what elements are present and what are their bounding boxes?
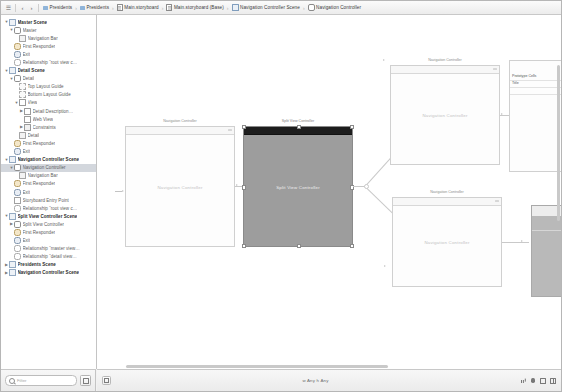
outline-row[interactable]: ▶Split View Controller bbox=[1, 220, 96, 228]
outline-row[interactable]: Exit bbox=[1, 50, 96, 58]
outline-row[interactable]: Web View bbox=[1, 115, 96, 123]
scene-frame[interactable]: Prototype Cells Title bbox=[509, 60, 561, 172]
grid-view-button[interactable]: ☰ bbox=[4, 3, 13, 12]
scene-navigation-controller-top-right[interactable]: Navigation Controller Navigation Control… bbox=[390, 65, 500, 165]
outline-row[interactable]: ▼View bbox=[1, 99, 96, 107]
filter-input[interactable]: Filter bbox=[5, 375, 77, 386]
scene-split-view-controller[interactable]: Split View Controller Split View Control… bbox=[243, 126, 353, 247]
exit-icon bbox=[14, 51, 21, 58]
align-icon[interactable] bbox=[520, 378, 526, 384]
breadcrumb-item-storyboard-base[interactable]: Main.storyboard (Base) bbox=[164, 2, 225, 14]
toggle-outline-button[interactable] bbox=[80, 375, 91, 386]
resolve-issues-icon[interactable] bbox=[540, 378, 546, 384]
view-icon bbox=[19, 99, 26, 106]
outline-row[interactable]: ▼Navigation Controller Scene bbox=[1, 156, 96, 164]
outline-row[interactable]: Storyboard Entry Point bbox=[1, 196, 96, 204]
breadcrumb-label: Main.storyboard bbox=[124, 5, 158, 10]
size-class-control[interactable]: w Any h Any bbox=[111, 378, 520, 383]
scene-frame[interactable]: Navigation Controller bbox=[390, 65, 500, 165]
breadcrumb-item-project[interactable]: Presidents bbox=[41, 2, 74, 14]
outline-row[interactable]: Navigation Bar bbox=[1, 34, 96, 42]
document-outline-panel[interactable]: ▼Master Scene▼MasterNavigation BarFirst … bbox=[1, 15, 97, 369]
pin-icon[interactable] bbox=[530, 378, 536, 384]
outline-row[interactable]: ▼Detail bbox=[1, 75, 96, 83]
view-controller-icon bbox=[14, 27, 21, 34]
resize-handle[interactable] bbox=[242, 185, 246, 189]
pin-glyph bbox=[531, 378, 534, 383]
scene-icon bbox=[9, 261, 16, 268]
storyboard-file-icon bbox=[117, 4, 123, 11]
outline-row[interactable]: Exit bbox=[1, 148, 96, 156]
resolve-glyph bbox=[540, 378, 546, 384]
search-icon bbox=[9, 378, 15, 384]
outline-row[interactable]: ▼Navigation Controller bbox=[1, 164, 96, 172]
outline-row[interactable]: Navigation Bar bbox=[1, 172, 96, 180]
outline-row[interactable]: Relationship “root view c… bbox=[1, 58, 96, 66]
outline-row[interactable]: ▼Split View Controller Scene bbox=[1, 212, 96, 220]
outline-row[interactable]: Exit bbox=[1, 237, 96, 245]
breadcrumb-item-storyboard[interactable]: Main.storyboard bbox=[115, 2, 161, 14]
scrollbar-thumb[interactable] bbox=[557, 65, 560, 221]
scene-navigation-controller-bottom-right[interactable]: Navigation Controller Navigation Control… bbox=[392, 197, 502, 287]
outline-row[interactable]: ▶Constraints bbox=[1, 123, 96, 131]
document-outline-toggle-button[interactable] bbox=[102, 376, 111, 385]
first-responder-icon bbox=[14, 140, 21, 147]
outline-row[interactable]: Detail bbox=[1, 131, 96, 139]
canvas-vertical-scrollbar[interactable] bbox=[557, 17, 560, 357]
outline-tree[interactable]: ▼Master Scene▼MasterNavigation BarFirst … bbox=[1, 15, 96, 277]
scene-frame[interactable]: Navigation Controller bbox=[125, 126, 235, 247]
outline-row-label: Bottom Layout Guide bbox=[28, 92, 71, 97]
breadcrumb-label: Presidents bbox=[86, 5, 109, 10]
canvas-horizontal-scrollbar[interactable] bbox=[99, 365, 551, 368]
outline-row[interactable]: Exit bbox=[1, 188, 96, 196]
stack-view-icon[interactable] bbox=[550, 378, 556, 384]
web-view-icon bbox=[24, 116, 31, 123]
navigation-bar bbox=[393, 198, 501, 206]
resize-handle[interactable] bbox=[297, 244, 301, 248]
outline-row[interactable]: First Responder bbox=[1, 42, 96, 50]
scene-frame[interactable]: Navigation Controller bbox=[392, 197, 502, 287]
outline-row[interactable]: Relationship “detail view… bbox=[1, 253, 96, 261]
outline-row-label: Split View Controller bbox=[23, 222, 64, 227]
outline-row[interactable]: Bottom Layout Guide bbox=[1, 91, 96, 99]
resize-handle[interactable] bbox=[350, 125, 354, 129]
resize-handle[interactable] bbox=[350, 244, 354, 248]
resize-handle[interactable] bbox=[242, 125, 246, 129]
storyboard-canvas[interactable]: Navigation Controller Navigation Control… bbox=[97, 15, 561, 369]
outline-row[interactable]: ▼Master bbox=[1, 26, 96, 34]
outline-row[interactable]: ▼Detail Scene bbox=[1, 67, 96, 75]
scene-frame[interactable]: Split View Controller bbox=[243, 126, 353, 247]
outline-row[interactable]: First Responder bbox=[1, 180, 96, 188]
scrollbar-thumb[interactable] bbox=[126, 365, 388, 368]
outline-row[interactable]: Relationship “master view… bbox=[1, 245, 96, 253]
cell-title-label: Title bbox=[512, 81, 519, 85]
resize-handle[interactable] bbox=[297, 125, 301, 129]
outline-row[interactable]: ▶Presidents Scene bbox=[1, 261, 96, 269]
view-controller-icon bbox=[14, 164, 21, 171]
forward-button[interactable]: › bbox=[27, 3, 36, 12]
outline-row[interactable]: First Responder bbox=[1, 228, 96, 236]
arrow-stem bbox=[115, 191, 122, 192]
arrow-head-icon bbox=[236, 184, 238, 186]
arrow-head-icon bbox=[383, 59, 385, 61]
scene-badge bbox=[495, 200, 500, 203]
outline-row[interactable]: First Responder bbox=[1, 139, 96, 147]
nav-bar-icon bbox=[19, 172, 26, 179]
outline-row-label: Detail bbox=[28, 133, 40, 138]
outline-row[interactable]: Top Layout Guide bbox=[1, 83, 96, 91]
breadcrumb-item-group[interactable]: Presidents bbox=[78, 2, 111, 14]
breadcrumb-item-scene[interactable]: Navigation Controller Scene bbox=[230, 2, 302, 14]
outline-row[interactable]: ▶Detail Description… bbox=[1, 107, 96, 115]
outline-row[interactable]: ▼Master Scene bbox=[1, 18, 96, 26]
filter-placeholder: Filter bbox=[17, 378, 27, 383]
breadcrumb-item-view-controller[interactable]: Navigation Controller bbox=[306, 2, 364, 14]
outline-row[interactable]: Relationship “root view c… bbox=[1, 204, 96, 212]
scene-presidents-table[interactable]: Prototype Cells Title bbox=[509, 60, 561, 172]
scene-body-label: Navigation Controller bbox=[393, 240, 501, 245]
outline-row[interactable]: ▶Navigation Controller Scene bbox=[1, 269, 96, 277]
scene-navigation-controller-left[interactable]: Navigation Controller Navigation Control… bbox=[125, 126, 235, 247]
back-button[interactable]: ‹ bbox=[18, 3, 27, 12]
scene-body-label: Split View Controller bbox=[244, 184, 352, 189]
resize-handle[interactable] bbox=[242, 244, 246, 248]
scene-icon bbox=[232, 4, 239, 11]
